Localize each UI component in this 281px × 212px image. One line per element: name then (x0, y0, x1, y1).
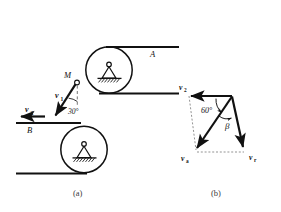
vector-vr-subscript: r (254, 157, 257, 163)
angle-30-arc (69, 98, 78, 101)
upper-roller-support-triangle (102, 67, 116, 78)
parallelogram-left-dashed (189, 96, 196, 150)
panel-a-group: A B M v 1 v 2 30° (a) (16, 47, 179, 198)
panel-b-caption: (b) (211, 188, 221, 198)
lower-roller-support-triangle (77, 146, 91, 157)
panel-b-group: v 2 v a v r 60° β (b) (179, 83, 257, 198)
velocity-v2-subscript: 2 (30, 110, 33, 116)
figure-canvas: A B M v 1 v 2 30° (a) (0, 0, 281, 212)
angle-60-arc (216, 99, 222, 113)
velocity-v1-subscript: 1 (60, 96, 63, 102)
angle-30-label: 30° (67, 107, 79, 116)
upper-roller-circle (86, 47, 132, 93)
angle-beta-arc (219, 116, 232, 119)
velocity-v2-label: v (25, 105, 29, 114)
belt-label-B: B (27, 125, 32, 135)
vector-vr-label: v (249, 153, 253, 162)
mechanics-figure: A B M v 1 v 2 30° (a) (0, 0, 281, 212)
vector-va-label: v (181, 154, 185, 163)
vector-va-subscript: a (186, 158, 189, 164)
angle-60-label: 60° (201, 106, 213, 115)
upper-roller-hatching (99, 79, 120, 83)
vector-v2-subscript: 2 (184, 87, 187, 93)
angle-beta-label: β (224, 121, 230, 131)
vector-v2-label: v (179, 83, 183, 92)
vector-vr-arrow (232, 97, 243, 148)
lower-roller-hatching (74, 158, 95, 162)
panel-a-caption: (a) (73, 188, 83, 198)
belt-label-A: A (149, 49, 156, 59)
lower-roller-circle (61, 126, 107, 172)
velocity-v1-label: v (55, 91, 59, 100)
point-label-M: M (63, 70, 72, 80)
